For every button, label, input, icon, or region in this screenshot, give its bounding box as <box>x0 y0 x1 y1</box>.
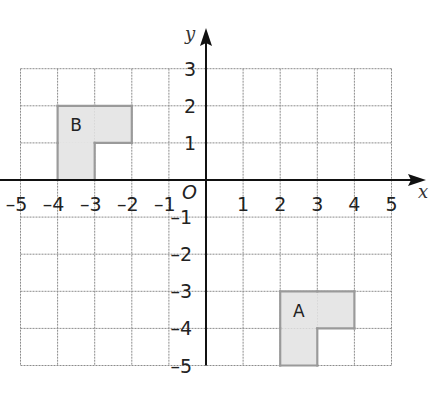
y-tick-label: 3 <box>184 58 196 80</box>
y-tick-label: –2 <box>170 243 192 265</box>
x-tick-label: –4 <box>43 193 65 215</box>
shape-cell <box>280 328 317 365</box>
origin-label: O <box>182 181 197 203</box>
x-tick-label: 5 <box>385 193 397 215</box>
shape-cell <box>95 106 132 143</box>
x-tick-label: 1 <box>237 193 249 215</box>
shape-cell <box>317 291 354 328</box>
y-tick-label: –5 <box>170 355 192 377</box>
shape-label-a: A <box>293 301 305 321</box>
x-axis-label: x <box>418 181 428 202</box>
y-tick-label: 2 <box>184 95 196 117</box>
y-tick-label: –4 <box>170 317 192 339</box>
x-tick-label: –3 <box>80 193 102 215</box>
y-tick-label: –1 <box>170 206 192 228</box>
grid-svg: BA xy –5–4–3–2–112345321–1–2–3–4–5O <box>0 0 435 395</box>
shape-cell <box>58 143 95 180</box>
y-tick-label: –3 <box>170 280 192 302</box>
x-tick-label: 2 <box>274 193 286 215</box>
x-tick-label: 3 <box>311 193 323 215</box>
x-tick-label: –2 <box>117 193 139 215</box>
shape-label-b: B <box>70 115 82 135</box>
y-axis-label: y <box>184 23 196 44</box>
y-tick-label: 1 <box>184 132 196 154</box>
x-tick-label: 4 <box>348 193 360 215</box>
x-tick-label: –5 <box>6 193 28 215</box>
shape-b: B <box>58 106 132 180</box>
coordinate-grid-diagram: BA xy –5–4–3–2–112345321–1–2–3–4–5O <box>0 0 435 395</box>
shape-a: A <box>280 291 354 365</box>
